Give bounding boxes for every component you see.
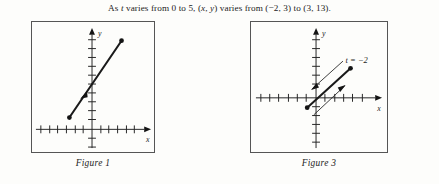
figure-3-graph: x y t = −2 xyxy=(251,22,387,152)
figure-3-y-axis-label: y xyxy=(321,29,326,38)
figure-1-curve xyxy=(67,38,124,120)
figure-1-end-point xyxy=(119,38,124,43)
figure-1-direction-arrow xyxy=(80,91,87,99)
figure-3-arrow-forward xyxy=(314,85,346,115)
figure-3-start-point xyxy=(305,105,310,110)
figure-1-graph: x y xyxy=(32,22,154,152)
figure-3-panel: x y t = −2 xyxy=(250,21,388,153)
figure-1-x-axis-label: x xyxy=(145,135,150,144)
figure-1-y-axis-label: y xyxy=(97,29,102,38)
figure-1-caption: Figure 1 xyxy=(31,158,155,168)
header-sentence: As t varies from 0 to 5, (x, y) varies f… xyxy=(0,2,439,15)
figure-1-panel: x y xyxy=(31,21,155,153)
figure-3-caption: Figure 3 xyxy=(250,158,388,168)
figure-3-x-axis-label: x xyxy=(376,104,381,113)
header-mid-1: varies from 0 to 5, ( xyxy=(124,3,201,13)
figure-3-end-point xyxy=(348,66,353,71)
page-root: As t varies from 0 to 5, (x, y) varies f… xyxy=(0,0,439,184)
header-prefix: As xyxy=(108,3,121,13)
figure-3-parameter-label: t = −2 xyxy=(346,55,369,65)
figure-1-start-point xyxy=(67,115,72,120)
figure-3-curve xyxy=(305,61,353,114)
figure-1-x-axis xyxy=(36,125,151,133)
header-mid-2: ) varies from (−2, 3) to (3, 13). xyxy=(214,3,331,13)
